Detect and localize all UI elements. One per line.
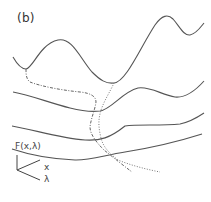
vertical-axis-label: F(x,λ) [15,142,41,151]
minimum-path-dotted [99,83,160,172]
profile-curve-1 [13,16,204,83]
figure-panel: (b) F(x,λ) x λ [0,0,211,202]
lambda-axis-label: λ [44,175,49,184]
panel-label: (b) [17,11,35,25]
profile-curve-2 [13,81,204,111]
axes-icon [17,155,40,180]
x-axis-label: x [44,163,49,172]
profile-curve-3 [12,113,204,140]
diagram-canvas [0,0,211,202]
